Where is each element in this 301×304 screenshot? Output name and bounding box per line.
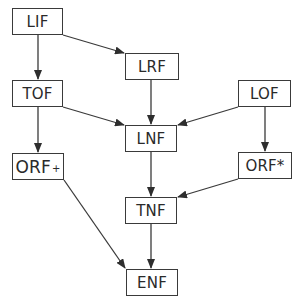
node-label: ORF* [245, 157, 284, 175]
node-lnf: LNF [125, 125, 177, 152]
node-lof: LOF [238, 80, 291, 107]
edge-orf-star-tnf [178, 179, 238, 197]
node-label: LNF [137, 130, 166, 148]
node-lrf: LRF [125, 53, 179, 80]
node-label: ENF [137, 274, 167, 292]
node-label: TOF [22, 85, 52, 103]
node-lif: LIF [12, 8, 63, 35]
edge-tof-lnf [63, 107, 124, 125]
edge-orf-plus-enf [64, 180, 125, 268]
node-tof: TOF [12, 80, 63, 107]
diagram-canvas: LIF LRF TOF LOF LNF ORF+ ORF* TNF ENF [0, 0, 301, 304]
edge-lif-lrf [63, 35, 124, 53]
node-label: LOF [250, 85, 279, 103]
edge-lof-lnf [178, 107, 238, 125]
node-label: ORF [15, 157, 51, 177]
node-orf-plus: ORF+ [12, 153, 64, 180]
node-label: TNF [136, 202, 166, 220]
node-orf-star: ORF* [238, 152, 292, 179]
node-label-suffix: + [52, 163, 61, 174]
node-label: LIF [26, 13, 48, 31]
node-label: LRF [138, 58, 166, 76]
node-tnf: TNF [125, 197, 177, 224]
node-enf: ENF [126, 269, 178, 296]
